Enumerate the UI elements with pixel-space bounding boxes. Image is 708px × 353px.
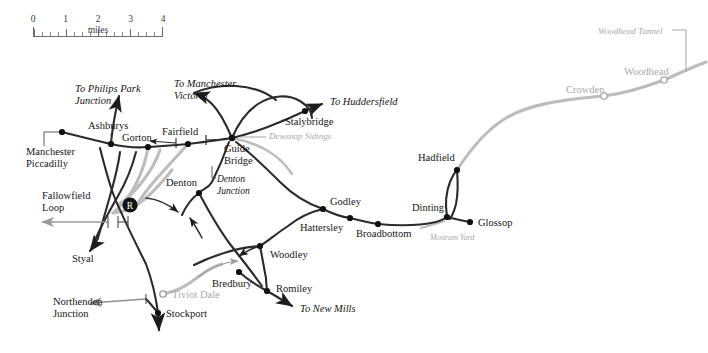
station-label-tiviot-dale: Tiviot Dale xyxy=(172,289,220,301)
station-dot-broadbottom xyxy=(375,221,381,227)
station-dot-hadfield xyxy=(454,167,460,173)
reddish-roundel-marker: R xyxy=(122,197,137,212)
station-dot-hattersley xyxy=(347,215,353,221)
station-label-crowden: Crowden xyxy=(566,84,605,96)
roundel-letter: R xyxy=(127,201,134,211)
station-dot-bredbury xyxy=(236,269,242,275)
station-dot-stockport xyxy=(155,310,161,316)
station-label-manchester-piccadilly: Manchester Piccadilly xyxy=(26,146,114,170)
station-dot-dinting xyxy=(444,214,450,220)
station-dot-stalybridge xyxy=(302,108,308,114)
station-label-denton: Denton xyxy=(166,177,197,189)
station-label-hattersley: Hattersley xyxy=(300,222,343,234)
annotation-dewsnap-sidings: Dewsnap Sidings xyxy=(269,131,331,143)
station-label-romiley: Romiley xyxy=(276,283,312,295)
line-denton-connector xyxy=(182,193,199,215)
station-label-fairfield: Fairfield xyxy=(162,126,198,138)
line-to-styal xyxy=(90,238,98,251)
station-label-broadbottom: Broadbottom xyxy=(356,228,411,240)
station-dot-godley xyxy=(320,206,326,212)
station-dot-guide-bridge xyxy=(229,135,236,142)
destination-label-huddersfield: To Huddersfield xyxy=(330,96,398,108)
station-label-hadfield: Hadfield xyxy=(418,152,455,164)
station-dot-romiley xyxy=(264,288,270,294)
destination-label-fallowfield-loop: Fallowfield Loop xyxy=(42,190,104,214)
line-denton-arrow-b xyxy=(190,218,202,238)
leader-manchester-piccadilly xyxy=(44,132,62,146)
fallowfield-loop-indicator xyxy=(42,216,128,228)
station-label-dinting: Dinting xyxy=(412,202,444,214)
destination-label-northenden-junction: Northenden Junction xyxy=(53,296,123,320)
station-label-gorton: Gorton xyxy=(122,132,152,144)
line-denton-arrow-a xyxy=(146,198,178,212)
station-dot-manchester-piccadilly xyxy=(59,129,65,135)
destination-label-philips-park-junction: To Philips Park Junction xyxy=(75,83,151,107)
station-label-stalybridge: Stalybridge xyxy=(285,116,333,128)
station-markers xyxy=(59,77,667,316)
annotation-mottram-yard: Mottram Yard xyxy=(430,232,475,244)
station-label-ashburys: Ashburys xyxy=(88,120,128,132)
destination-label-styal: Styal xyxy=(72,253,94,265)
leader-woodhead-tunnel xyxy=(672,30,686,72)
station-label-bredbury: Bredbury xyxy=(212,278,252,290)
destination-label-new-mills: To New Mills xyxy=(300,303,356,315)
line-denton-south xyxy=(199,193,262,286)
destination-label-manchester-victoria: To Manchester Victoria xyxy=(174,78,246,102)
station-dot-glossop xyxy=(467,219,473,225)
annotation-woodhead-tunnel: Woodhead Tunnel xyxy=(598,26,662,38)
station-label-godley: Godley xyxy=(330,196,361,208)
station-label-glossop: Glossop xyxy=(478,217,512,229)
station-dot-woodley xyxy=(257,243,263,249)
station-dot-denton xyxy=(196,190,202,196)
station-dot-fairfield xyxy=(185,141,191,147)
station-dot-tiviot-dale xyxy=(160,291,166,297)
station-dot-gorton xyxy=(145,144,151,150)
station-label-guide-bridge: Guide Bridge xyxy=(224,143,270,167)
annotation-denton-junction: Denton Junction xyxy=(217,173,263,197)
station-dot-woodhead xyxy=(661,77,667,83)
station-label-stockport: Stockport xyxy=(166,308,207,320)
line-woodhead-route xyxy=(457,62,706,170)
railway-map: 0 1 2 3 4 miles xyxy=(0,0,708,353)
station-label-woodley: Woodley xyxy=(270,249,308,261)
line-reddish-curve xyxy=(136,144,188,206)
station-label-woodhead: Woodhead xyxy=(624,66,669,78)
